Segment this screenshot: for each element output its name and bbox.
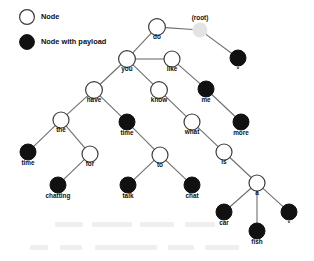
watermark-smudge	[205, 245, 239, 250]
node-label-car: car	[219, 219, 229, 226]
node-label-root: (root)	[192, 14, 209, 22]
node-circle-time2[interactable]	[20, 144, 36, 160]
node-label-fish: fish	[251, 238, 262, 245]
node-root[interactable]: (root)	[192, 14, 209, 38]
node-label-chat: chat	[185, 192, 199, 199]
node-circle-star2[interactable]	[281, 204, 297, 220]
node-circle-chat[interactable]	[184, 177, 200, 193]
node-label-chatting: chatting	[46, 192, 71, 200]
legend-node-label: Node	[41, 12, 59, 21]
node-label-a: a	[255, 189, 259, 196]
watermark-smudge	[95, 245, 157, 250]
node-circle-star1[interactable]	[230, 50, 246, 66]
watermark-smudge	[185, 222, 215, 227]
legend-open-swatch	[20, 10, 35, 25]
node-label-you: you	[121, 65, 132, 73]
node-label-is: is	[221, 158, 227, 165]
node-label-what: what	[184, 128, 200, 135]
watermark-smudge	[168, 245, 194, 250]
node-label-to: to	[157, 161, 163, 168]
watermark-smudge	[92, 222, 132, 227]
node-circle-chatting[interactable]	[50, 177, 66, 193]
node-chat[interactable]: chat	[184, 177, 200, 199]
node-label-know: know	[151, 96, 167, 103]
diagram-canvas: (root)do*youlikememorehaveknowthetimewha…	[0, 0, 314, 261]
node-label-have: have	[87, 96, 102, 103]
node-have[interactable]: have	[86, 82, 103, 103]
node-circle-more[interactable]	[233, 114, 249, 130]
node-label-do: do	[153, 33, 161, 40]
node-label-time1: time	[120, 129, 134, 136]
node-label-for: for	[86, 160, 95, 167]
node-label-time2: time	[21, 159, 35, 166]
node-label-me: me	[201, 96, 211, 103]
node-label-more: more	[233, 129, 249, 136]
node-label-like: like	[167, 65, 178, 72]
node-time1[interactable]: time	[119, 114, 135, 136]
node-circle-fish[interactable]	[249, 223, 265, 239]
node-what[interactable]: what	[184, 114, 200, 135]
node-circle-root[interactable]	[193, 23, 208, 38]
node-fish[interactable]: fish	[249, 223, 265, 245]
watermark-smudge	[60, 245, 82, 250]
node-more[interactable]: more	[233, 114, 249, 136]
node-circle-me[interactable]	[198, 81, 214, 97]
legend-node-payload-label: Node with payload	[41, 37, 107, 46]
watermark-smudge	[30, 245, 48, 250]
tree-diagram: (root)do*youlikememorehaveknowthetimewha…	[0, 0, 314, 261]
watermark-smudge	[55, 222, 83, 227]
node-circle-talk[interactable]	[120, 177, 136, 193]
node-label-talk: talk	[122, 192, 133, 199]
node-time2[interactable]: time	[20, 144, 36, 166]
node-know[interactable]: know	[151, 82, 168, 103]
node-label-the: the	[56, 126, 66, 133]
node-circle-car[interactable]	[216, 204, 232, 220]
legend-payload-swatch	[20, 35, 35, 50]
watermark-smudge	[140, 222, 174, 227]
node-circle-time1[interactable]	[119, 114, 135, 130]
